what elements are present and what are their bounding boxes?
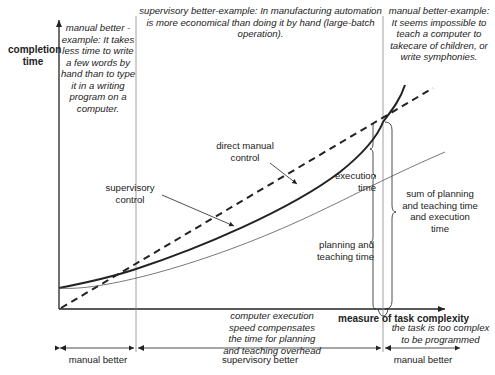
label-planning: planning and teaching time xyxy=(312,239,374,262)
supervisory-pointer xyxy=(162,195,234,226)
range-label-manual-left: manual better xyxy=(60,354,136,366)
region-supervisory-example: supervisory better-example: In manufactu… xyxy=(138,5,383,40)
region-1-text: It takes less time to write a few words … xyxy=(61,34,135,114)
region-manual-left-example: manual better -example: It takes less ti… xyxy=(60,22,136,114)
label-supervisory: supervisory control xyxy=(100,182,160,205)
label-sum: sum of planning and teaching time and ex… xyxy=(400,188,480,234)
planning-curve xyxy=(59,152,445,288)
region-3-text: It seems impossible to teach a computer … xyxy=(390,17,488,63)
y-axis-label: completion time xyxy=(8,44,58,67)
label-direct-manual: direct manual control xyxy=(210,140,280,163)
note-computer-speed: computer execution speed compensates the… xyxy=(222,310,322,356)
note-too-complex: the task is too complex to be programmed xyxy=(388,322,493,345)
execution-brace xyxy=(370,122,376,176)
sum-brace xyxy=(385,122,396,309)
direct-manual-pointer xyxy=(270,163,297,184)
range-label-supervisory: supervisory better xyxy=(200,354,320,366)
region-manual-right-example: manual better-example: It seems impossib… xyxy=(385,5,493,63)
label-execution: execution time xyxy=(326,170,376,193)
region-2-title: supervisory better-example: xyxy=(139,5,257,16)
range-label-manual-right: manual better xyxy=(385,354,461,366)
region-3-title: manual better-example: xyxy=(389,5,490,16)
